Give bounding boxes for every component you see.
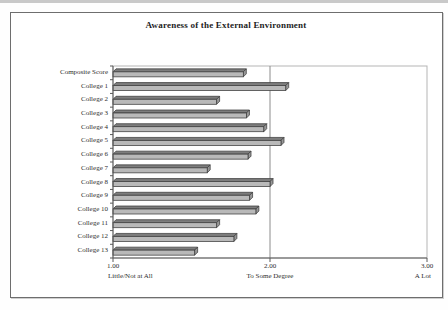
bar-college-12: [113, 233, 237, 241]
category-label-college-4: College 4: [0, 123, 108, 132]
bar-college-11: [113, 220, 220, 228]
category-label-college-3: College 3: [0, 109, 108, 118]
category-label-college-9: College 9: [0, 191, 108, 200]
bar-college-1: [113, 83, 289, 91]
x-tick-descriptor-little-not-at-all: Little/Not at All: [108, 272, 153, 280]
category-label-college-7: College 7: [0, 164, 108, 173]
x-tick-3.00: 3.00: [407, 262, 447, 270]
bar-college-4: [113, 124, 267, 132]
bar-college-8: [113, 179, 273, 187]
category-label-college-10: College 10: [0, 205, 108, 214]
category-label-college-11: College 11: [0, 219, 108, 228]
category-label-college-5: College 5: [0, 136, 108, 145]
category-label-composite-score: Composite Score: [0, 68, 108, 77]
x-tick-descriptor-a-lot: A Lot: [415, 272, 431, 280]
category-label-college-12: College 12: [0, 232, 108, 241]
bar-chart-plot: [103, 56, 443, 270]
bar-composite-score: [113, 69, 246, 77]
bar-college-5: [113, 137, 284, 145]
bar-college-2: [113, 96, 220, 104]
category-label-college-6: College 6: [0, 150, 108, 159]
x-tick-2.00: 2.00: [250, 262, 290, 270]
bar-college-9: [113, 192, 253, 200]
bar-college-6: [113, 151, 251, 159]
category-label-college-1: College 1: [0, 82, 108, 91]
bar-college-7: [113, 165, 210, 173]
x-tick-descriptor-to-some-degree: To Some Degree: [210, 272, 330, 280]
bar-college-13: [113, 247, 198, 255]
bar-college-3: [113, 110, 249, 118]
bar-college-10: [113, 206, 259, 214]
chart-title: Awareness of the External Environment: [10, 20, 442, 31]
scanned-chart-page: Awareness of the External Environment Co…: [0, 0, 448, 310]
category-label-college-8: College 8: [0, 178, 108, 187]
category-label-college-2: College 2: [0, 95, 108, 104]
x-tick-1.00: 1.00: [93, 262, 133, 270]
category-label-college-13: College 13: [0, 246, 108, 255]
scan-edge-artifact: [0, 0, 448, 3]
